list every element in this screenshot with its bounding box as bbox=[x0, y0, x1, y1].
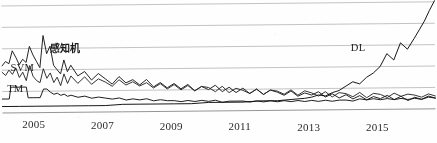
gridline bbox=[3, 109, 436, 113]
x-tick-2009: 2009 bbox=[160, 120, 183, 132]
x-tick-2011: 2011 bbox=[229, 120, 251, 132]
gridline bbox=[1, 2, 434, 6]
series-label-感知机: 感知机 bbox=[50, 40, 80, 55]
series-label-tm: TM bbox=[7, 83, 23, 94]
x-tick-2005: 2005 bbox=[22, 118, 45, 130]
series-line-svm bbox=[2, 62, 435, 101]
x-tick-2007: 2007 bbox=[91, 119, 114, 131]
series-label-svm: SVM bbox=[11, 62, 35, 73]
trends-chart: 200520072009201120132015 感知机SVMTMDL bbox=[0, 0, 437, 143]
x-tick-2013: 2013 bbox=[297, 121, 320, 133]
gridlines bbox=[1, 2, 435, 113]
gridline bbox=[2, 23, 435, 27]
series-label-dl: DL bbox=[351, 42, 366, 53]
x-tick-2015: 2015 bbox=[366, 121, 389, 133]
series-line-tm bbox=[2, 83, 435, 104]
